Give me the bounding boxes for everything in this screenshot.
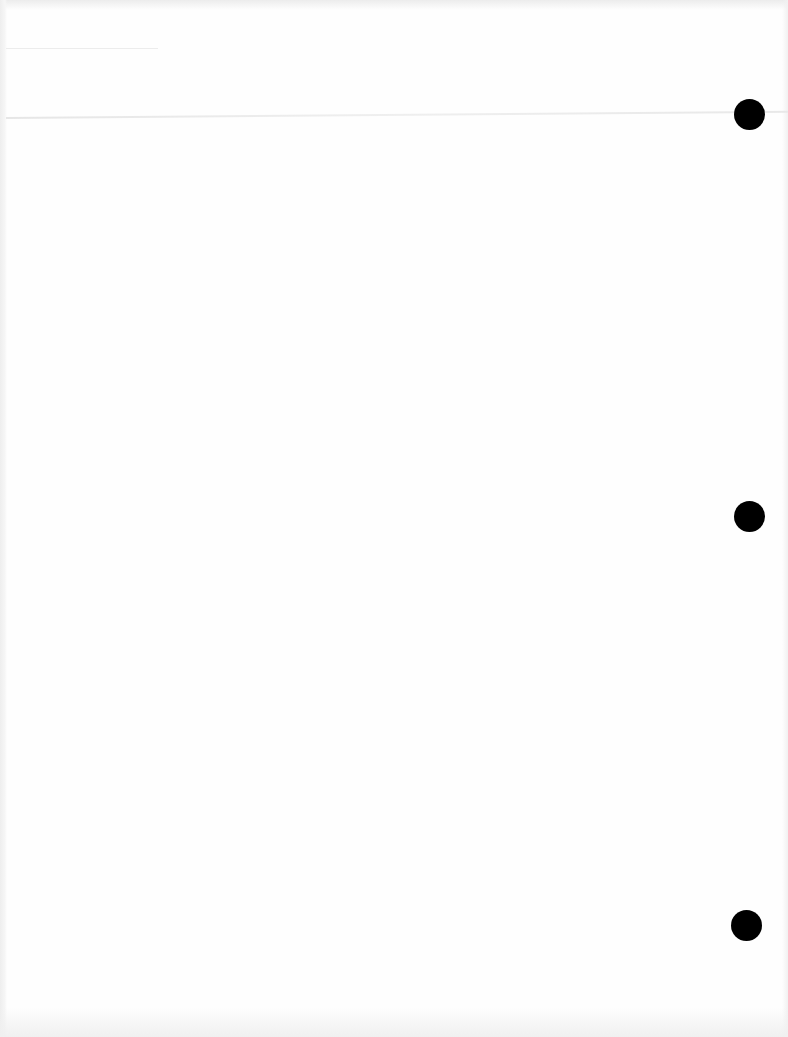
scanned-page: [0, 0, 788, 1037]
punch-hole-icon: [734, 99, 765, 130]
scan-shadow-left: [0, 0, 7, 1037]
paper-crease-short: [6, 48, 158, 49]
scan-shadow-top: [0, 0, 788, 10]
paper-crease-long: [6, 111, 788, 119]
scan-shadow-bottom: [0, 1007, 788, 1037]
punch-hole-icon: [731, 910, 762, 941]
scan-shadow-right: [782, 0, 788, 1037]
punch-hole-icon: [734, 501, 765, 532]
